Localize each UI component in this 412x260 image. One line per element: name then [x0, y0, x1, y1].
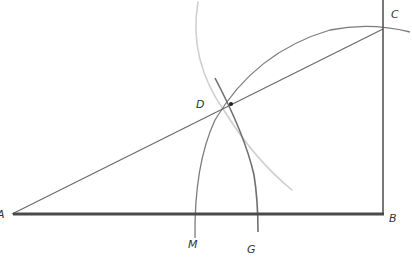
- arc-through-d-to-g: [215, 78, 258, 232]
- label-g: G: [247, 243, 256, 256]
- point-d-marker: [229, 102, 233, 106]
- label-c: C: [391, 8, 399, 21]
- label-a: A: [0, 208, 5, 221]
- geometric-construction-diagram: A B C D M G: [0, 0, 412, 260]
- label-b: B: [389, 212, 397, 225]
- arc-c-to-m: [195, 26, 410, 238]
- label-d: D: [196, 98, 204, 111]
- label-m: M: [188, 238, 198, 251]
- faint-construction-arc: [196, 2, 292, 190]
